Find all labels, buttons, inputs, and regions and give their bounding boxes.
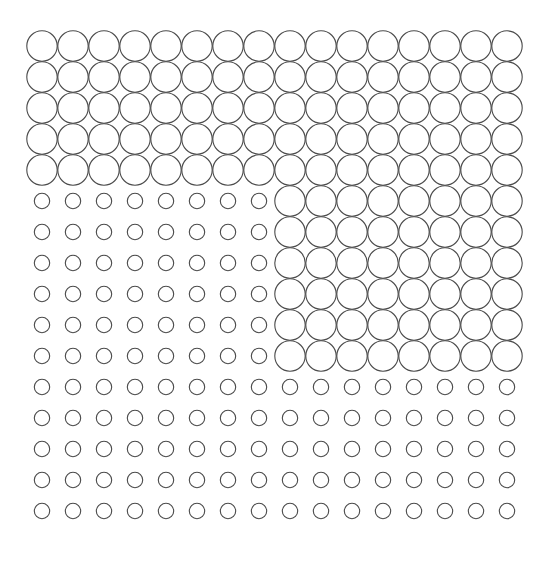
small-circle bbox=[499, 503, 514, 518]
small-circle bbox=[127, 379, 142, 394]
large-circle bbox=[213, 62, 243, 92]
large-circle bbox=[461, 186, 491, 216]
large-circle bbox=[430, 279, 460, 309]
large-circle bbox=[399, 93, 429, 123]
large-circle bbox=[27, 124, 57, 154]
small-circle bbox=[437, 503, 452, 518]
large-circle bbox=[430, 186, 460, 216]
large-circle bbox=[337, 31, 367, 61]
large-circle bbox=[182, 31, 212, 61]
small-circle bbox=[65, 255, 80, 270]
circle-grid-figure bbox=[0, 0, 551, 562]
circle-row-3 bbox=[27, 124, 522, 154]
large-circle bbox=[461, 279, 491, 309]
small-circle bbox=[220, 255, 235, 270]
large-circle bbox=[275, 93, 305, 123]
large-circle bbox=[244, 155, 274, 185]
small-circle bbox=[96, 224, 111, 239]
small-circle bbox=[158, 348, 173, 363]
large-circle bbox=[399, 186, 429, 216]
circle-row-9 bbox=[34, 310, 522, 340]
small-circle bbox=[189, 441, 204, 456]
large-circle bbox=[306, 341, 336, 371]
small-circle bbox=[282, 410, 297, 425]
large-circle bbox=[337, 341, 367, 371]
small-circle bbox=[375, 472, 390, 487]
small-circle bbox=[344, 441, 359, 456]
large-circle bbox=[213, 31, 243, 61]
small-circle bbox=[406, 503, 421, 518]
small-circle bbox=[34, 472, 49, 487]
small-circle bbox=[158, 503, 173, 518]
small-circle bbox=[189, 410, 204, 425]
large-circle bbox=[492, 155, 522, 185]
small-circle bbox=[127, 410, 142, 425]
small-circle bbox=[127, 348, 142, 363]
small-circle bbox=[313, 379, 328, 394]
large-circle bbox=[306, 217, 336, 247]
large-circle bbox=[151, 155, 181, 185]
large-circle bbox=[275, 310, 305, 340]
small-circle bbox=[158, 472, 173, 487]
large-circle bbox=[306, 186, 336, 216]
large-circle bbox=[244, 124, 274, 154]
small-circle bbox=[313, 503, 328, 518]
small-circle bbox=[251, 472, 266, 487]
large-circle bbox=[492, 279, 522, 309]
small-circle bbox=[220, 348, 235, 363]
large-circle bbox=[337, 62, 367, 92]
large-circle bbox=[27, 155, 57, 185]
large-circle bbox=[337, 279, 367, 309]
large-circle bbox=[275, 155, 305, 185]
large-circle bbox=[430, 62, 460, 92]
large-circle bbox=[306, 124, 336, 154]
large-circle bbox=[492, 124, 522, 154]
circle-row-4 bbox=[27, 155, 522, 185]
large-circle bbox=[430, 310, 460, 340]
large-circle bbox=[337, 217, 367, 247]
large-circle bbox=[213, 93, 243, 123]
small-circle bbox=[220, 472, 235, 487]
large-circle bbox=[430, 248, 460, 278]
small-circle bbox=[251, 224, 266, 239]
small-circle bbox=[127, 503, 142, 518]
large-circle bbox=[58, 31, 88, 61]
large-circle bbox=[430, 93, 460, 123]
large-circle bbox=[337, 124, 367, 154]
large-circle bbox=[399, 62, 429, 92]
small-circle bbox=[499, 379, 514, 394]
small-circle bbox=[34, 503, 49, 518]
small-circle bbox=[437, 441, 452, 456]
large-circle bbox=[306, 155, 336, 185]
small-circle bbox=[251, 348, 266, 363]
small-circle bbox=[189, 286, 204, 301]
large-circle bbox=[244, 31, 274, 61]
small-circle bbox=[34, 224, 49, 239]
circle-row-15 bbox=[34, 503, 514, 518]
small-circle bbox=[313, 410, 328, 425]
small-circle bbox=[220, 286, 235, 301]
small-circle bbox=[437, 410, 452, 425]
small-circle bbox=[251, 410, 266, 425]
large-circle bbox=[337, 248, 367, 278]
circle-row-2 bbox=[27, 93, 522, 123]
circle-row-0 bbox=[27, 31, 522, 61]
large-circle bbox=[461, 310, 491, 340]
small-circle bbox=[406, 379, 421, 394]
small-circle bbox=[34, 348, 49, 363]
large-circle bbox=[27, 31, 57, 61]
small-circle bbox=[34, 317, 49, 332]
large-circle bbox=[368, 341, 398, 371]
large-circle bbox=[89, 62, 119, 92]
small-circle bbox=[127, 286, 142, 301]
large-circle bbox=[492, 62, 522, 92]
small-circle bbox=[375, 410, 390, 425]
small-circle bbox=[96, 410, 111, 425]
small-circle bbox=[282, 441, 297, 456]
small-circle bbox=[468, 503, 483, 518]
large-circle bbox=[306, 279, 336, 309]
small-circle bbox=[220, 193, 235, 208]
large-circle bbox=[182, 62, 212, 92]
large-circle bbox=[244, 62, 274, 92]
small-circle bbox=[96, 193, 111, 208]
